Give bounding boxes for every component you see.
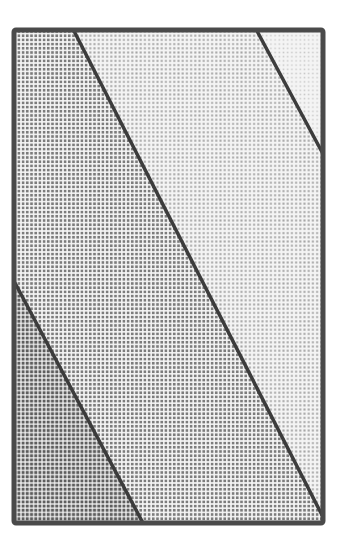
shaded-regions — [14, 30, 323, 523]
diagram-canvas — [0, 0, 345, 545]
